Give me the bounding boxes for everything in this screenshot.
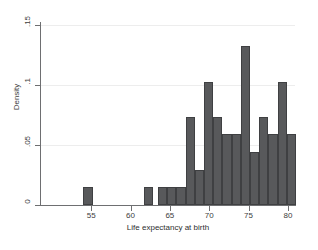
y-tick-label-text: .15 (23, 16, 32, 27)
histogram-bar (232, 134, 241, 205)
y-tick-mark (35, 25, 40, 26)
histogram-bar (213, 117, 222, 205)
x-axis-line (40, 205, 296, 206)
histogram-bar (144, 187, 153, 205)
histogram-bar (259, 117, 268, 205)
plot-area (40, 22, 295, 205)
y-tick-label-text: .05 (23, 136, 32, 147)
histogram-figure: 0.05.1.15 556065707580 Density Life expe… (0, 0, 318, 250)
y-tick-label-text: 0 (23, 199, 32, 203)
y-tick-label: 0 (21, 197, 34, 206)
histogram-bar (186, 117, 195, 205)
histogram-bar (195, 170, 204, 205)
histogram-bar (268, 134, 277, 205)
histogram-bar (250, 152, 259, 205)
x-tick-label: 75 (237, 211, 261, 220)
histogram-bar (176, 187, 185, 205)
y-axis-title: Density (4, 92, 18, 102)
y-axis-title-text: Density (12, 84, 22, 111)
y-tick-mark (35, 85, 40, 86)
x-tick-label: 60 (119, 211, 143, 220)
histogram-bar (158, 187, 167, 205)
x-axis-title: Life expectancy at birth (40, 223, 296, 232)
y-tick-label: .15 (21, 17, 34, 26)
x-tick-label: 55 (79, 211, 103, 220)
histogram-bar (83, 187, 92, 205)
x-tick-label: 65 (158, 211, 182, 220)
y-axis-line (40, 22, 41, 206)
histogram-bar (222, 134, 231, 205)
y-tick-label-text: .1 (23, 78, 32, 85)
histogram-bar (204, 82, 213, 205)
histogram-bar (278, 82, 287, 205)
x-tick-label: 80 (276, 211, 300, 220)
y-tick-mark (35, 145, 40, 146)
y-tick-mark (35, 205, 40, 206)
y-tick-label: .1 (21, 77, 34, 86)
bars-container (40, 22, 295, 205)
histogram-bar (241, 46, 250, 205)
y-tick-label: .05 (21, 137, 34, 146)
histogram-bar (167, 187, 176, 205)
histogram-bar (287, 134, 296, 205)
x-tick-label: 70 (197, 211, 221, 220)
